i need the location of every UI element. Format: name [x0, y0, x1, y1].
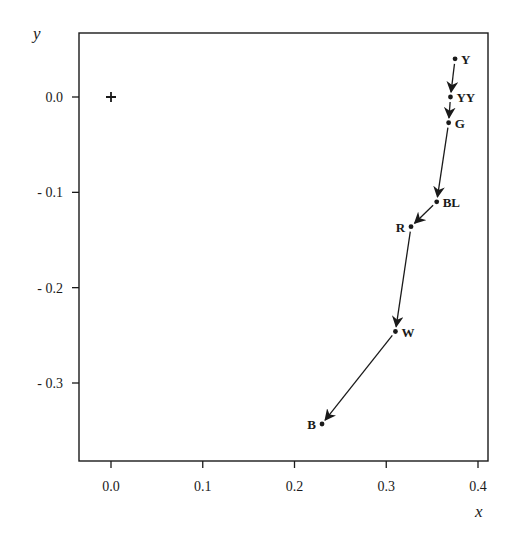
arrow-y-to-yy: [451, 64, 454, 92]
point-label-b: B: [307, 417, 316, 432]
point-y: [453, 56, 458, 61]
plot-frame: [79, 33, 488, 461]
x-tick-label: 0.1: [194, 479, 212, 494]
point-label-g: G: [455, 116, 465, 131]
x-axis: 0.00.10.20.30.4: [102, 461, 487, 494]
point-r: [409, 224, 414, 229]
arrow-g-to-bl: [437, 128, 447, 197]
point-label-r: R: [396, 220, 406, 235]
point-w: [393, 329, 398, 334]
point-bl: [434, 199, 439, 204]
y-axis-title: y: [31, 24, 41, 43]
point-label-bl: BL: [443, 195, 461, 210]
x-axis-title: x: [474, 502, 483, 521]
x-tick-label: 0.2: [286, 479, 304, 494]
point-yy: [448, 95, 453, 100]
scatter-chart: 0.00.10.20.30.4 0.0- 0.1- 0.2- 0.3 x y Y…: [0, 0, 512, 535]
x-tick-label: 0.0: [102, 479, 120, 494]
arrow-w-to-b: [325, 335, 392, 420]
origin-plus-marker: [106, 92, 116, 102]
point-b: [320, 422, 325, 427]
y-tick-label: - 0.2: [37, 281, 63, 296]
point-label-yy: YY: [456, 90, 475, 105]
y-tick-label: 0.0: [46, 90, 64, 105]
arrow-bl-to-r: [415, 205, 433, 223]
x-tick-label: 0.4: [469, 479, 487, 494]
y-axis: 0.0- 0.1- 0.2- 0.3: [37, 90, 79, 391]
arrow-yy-to-g: [449, 102, 450, 118]
trajectory-arrows: [325, 64, 454, 420]
data-points: YYYGBLRWB: [307, 52, 476, 432]
y-tick-label: - 0.3: [37, 376, 63, 391]
point-g: [446, 120, 451, 125]
plus-icon: [106, 92, 116, 102]
arrow-r-to-w: [396, 232, 410, 327]
y-tick-label: - 0.1: [37, 185, 63, 200]
point-label-y: Y: [461, 52, 471, 67]
point-label-w: W: [401, 325, 414, 340]
x-tick-label: 0.3: [378, 479, 396, 494]
